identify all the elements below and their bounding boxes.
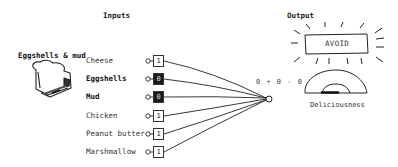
output-verdict: AVOID xyxy=(325,39,349,48)
input-label-cheese: Cheese xyxy=(86,56,113,65)
output-node xyxy=(266,96,272,102)
input-toggle-cheese[interactable]: 1 xyxy=(153,55,164,67)
input-label-mud: Mud xyxy=(86,92,100,101)
gauge-label: Deliciousness xyxy=(310,101,365,109)
input-label-eggshells: Eggshells xyxy=(86,74,127,83)
input-label-marshmallow: Marshmallow xyxy=(86,147,136,156)
input-toggle-marshmallow[interactable]: 1 xyxy=(153,146,164,158)
input-toggle-eggshells[interactable]: 0 xyxy=(153,73,164,85)
input-label-peanut-butter: Peanut butter xyxy=(86,129,145,138)
input-toggle-mud[interactable]: 0 xyxy=(153,91,164,103)
deliciousness-gauge xyxy=(305,70,367,93)
diagram-lines xyxy=(0,0,398,167)
input-toggle-chicken[interactable]: 1 xyxy=(153,110,164,122)
input-label-chicken: Chicken xyxy=(86,111,118,120)
sandwich-icon xyxy=(33,60,71,97)
combiner-formula: 0 + 0 - 0 xyxy=(256,78,303,86)
input-toggle-peanut-butter[interactable]: 1 xyxy=(153,128,164,140)
